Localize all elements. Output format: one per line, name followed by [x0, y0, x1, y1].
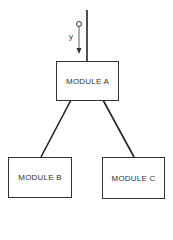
module-b-label: MODULE B: [18, 173, 61, 182]
edge-a-b: [41, 100, 71, 157]
arrow-down-icon: [77, 48, 82, 54]
module-b-box: MODULE B: [8, 157, 72, 198]
data-flag-circle-icon: [77, 22, 82, 27]
module-c-box: MODULE C: [102, 157, 165, 199]
module-a-label: MODULE A: [66, 77, 109, 86]
data-flag-label: y: [69, 32, 73, 41]
edge-a-c: [103, 100, 134, 157]
module-c-label: MODULE C: [112, 174, 156, 183]
module-a-box: MODULE A: [56, 61, 119, 101]
